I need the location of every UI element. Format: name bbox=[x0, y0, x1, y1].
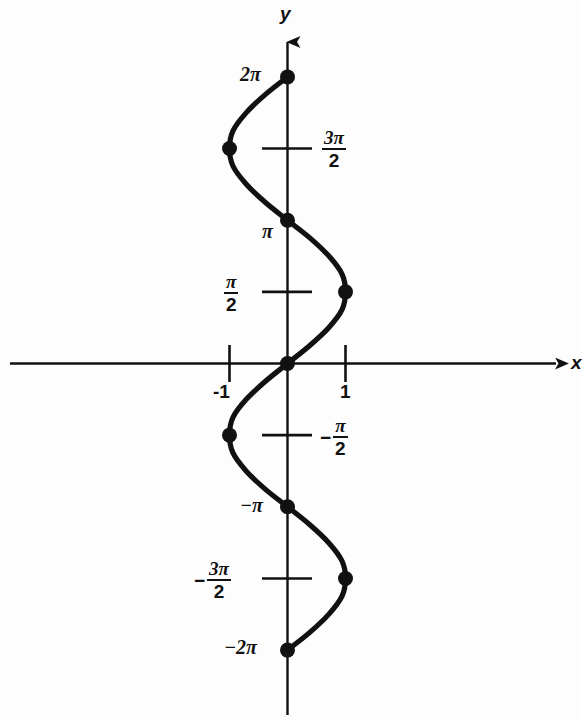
y-axis-label: y bbox=[280, 4, 291, 23]
x-tick-label-neg1: -1 bbox=[213, 382, 230, 401]
marked-point-neg1-neg-pi-over-2 bbox=[222, 428, 237, 443]
marked-point-1-pi-over-2 bbox=[338, 284, 353, 299]
y-tick-label-neg-two-pi: −2π bbox=[224, 637, 257, 657]
y-tick-label-two-pi: 2π bbox=[240, 64, 261, 84]
graph-figure: x y -1 1 2π 3π 2 π π 2 − π 2 −π − 3π 2 bbox=[0, 0, 582, 721]
y-tick-label-pi: π bbox=[262, 221, 273, 241]
marked-point-0-neg-pi bbox=[280, 499, 295, 514]
fraction-neg-pi-over-two: π 2 bbox=[333, 416, 348, 458]
y-tick-label-neg-three-pi-over-two: − 3π 2 bbox=[194, 559, 231, 601]
fraction-neg-three-pi-over-two: 3π 2 bbox=[207, 559, 231, 601]
x-axis-label: x bbox=[571, 353, 582, 372]
marked-point-neg1-3pi-over-2 bbox=[222, 141, 237, 156]
y-tick-label-neg-pi-over-two: − π 2 bbox=[320, 416, 348, 458]
fraction-three-pi-over-two: 3π 2 bbox=[322, 128, 346, 170]
y-tick-label-three-pi-over-two: 3π 2 bbox=[322, 128, 346, 170]
y-tick-label-pi-over-two: π 2 bbox=[224, 272, 239, 314]
x-tick-label-1: 1 bbox=[340, 382, 351, 401]
fraction-pi-over-two: π 2 bbox=[224, 272, 239, 314]
coordinate-plot bbox=[0, 0, 582, 721]
marked-point-0-pi bbox=[280, 213, 295, 228]
marked-point-1-neg-3pi-over-2 bbox=[338, 571, 353, 586]
y-tick-label-neg-pi: −π bbox=[240, 495, 263, 515]
marked-point-0-neg-2pi bbox=[280, 643, 295, 658]
marked-point-origin bbox=[280, 356, 295, 371]
marked-point-0-2pi bbox=[280, 69, 295, 84]
